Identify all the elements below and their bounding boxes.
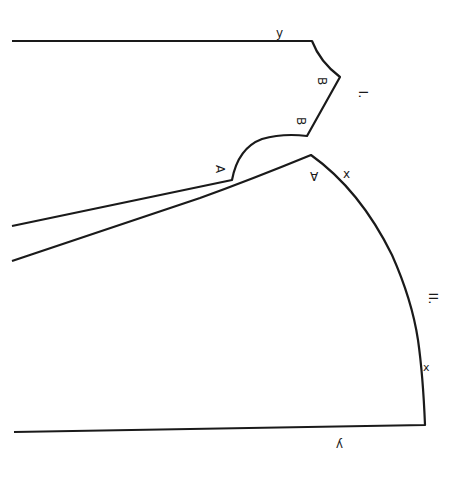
- label-b-lower: B: [295, 117, 307, 125]
- piece-2-outline: [12, 155, 425, 432]
- label-piece-1-roman: I.: [357, 91, 370, 99]
- pattern-lines: [0, 0, 464, 481]
- label-piece-2-roman: II.: [427, 293, 440, 305]
- label-b-upper: B: [316, 77, 328, 85]
- label-a-piece-1: A: [214, 165, 226, 173]
- label-y-top: y: [276, 27, 283, 39]
- label-a-piece-2: A: [310, 170, 318, 182]
- piece-1-outline: [12, 41, 340, 226]
- label-x-lower: x: [423, 362, 430, 373]
- pattern-diagram: y B B I. A A x II. x y: [0, 0, 464, 481]
- label-y-bottom: y: [336, 439, 343, 451]
- label-x-upper: x: [343, 168, 350, 180]
